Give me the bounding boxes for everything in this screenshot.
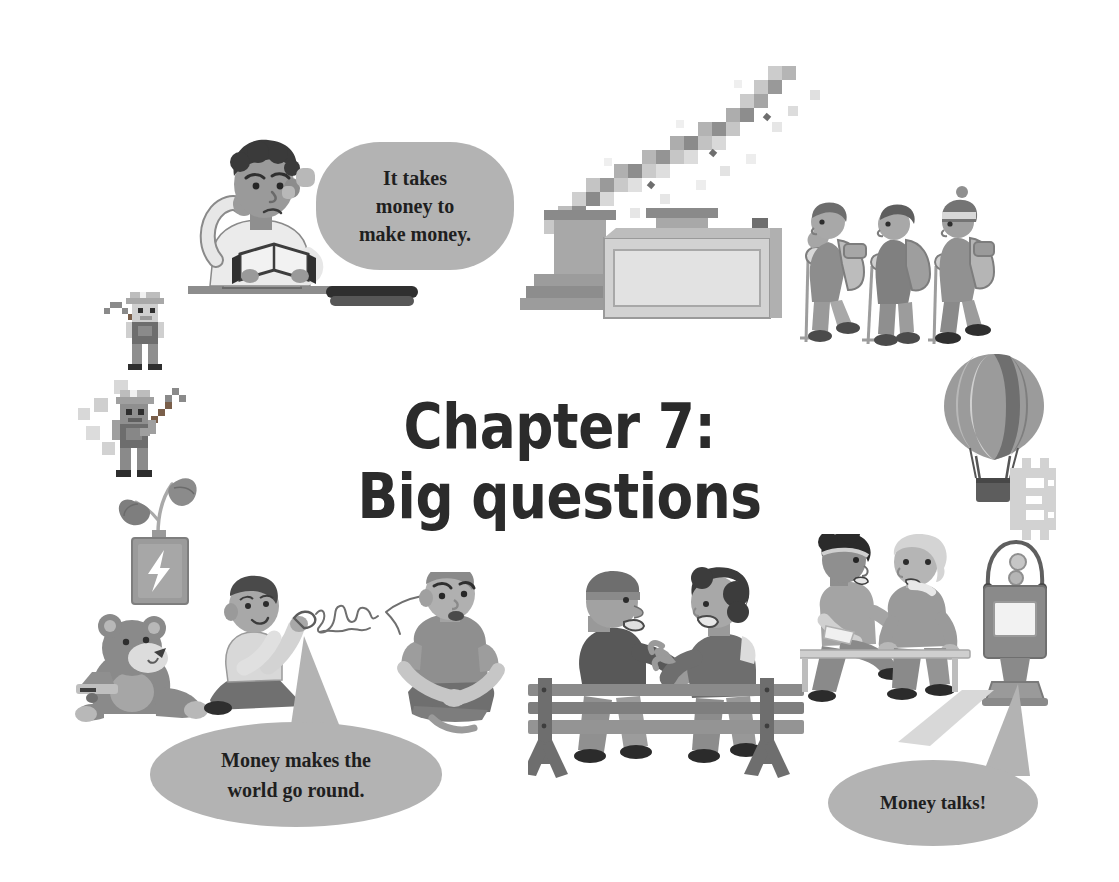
page-title: Chapter 7: Big questions [78,392,1040,532]
speech-bubble-it-takes-money: It takes money to make money. [316,142,514,270]
thought-dot-medium [296,168,315,187]
page-title-line-2: Big questions [78,462,1040,532]
teddy-bear-illustration [70,612,210,728]
thought-dot-small [282,186,295,199]
speech-bubble-tail-left [276,636,356,736]
page-title-line-1: Chapter 7: [78,392,1040,462]
hiker-2 [862,205,930,346]
speech-bubble-text: Money makes the world go round. [170,745,422,805]
hiker-1 [800,203,866,342]
speech-bubble-text: Money talks! [842,790,1024,816]
scribble-lines [316,606,378,633]
park-bench [528,678,804,778]
speech-bubble-money-talks: Money talks! [828,760,1038,846]
pixel-miner-upper-illustration [100,286,180,382]
speech-bubble-text: It takes money to make money. [330,164,500,248]
couple-on-bench-illustration [528,560,828,786]
chapter-opener-page: It takes money to make money. [0,0,1119,882]
closed-books-illustration [322,278,422,314]
hiker-3 [928,186,994,344]
hikers-illustration [788,178,1004,350]
